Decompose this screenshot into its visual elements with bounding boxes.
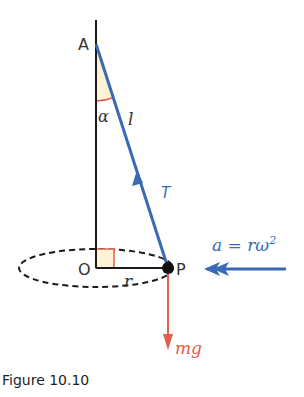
- weight-arrowhead: [163, 334, 173, 350]
- label-a: A: [78, 35, 89, 54]
- string-line: [96, 44, 168, 268]
- label-tension: T: [161, 184, 172, 202]
- label-p: P: [176, 260, 186, 279]
- right-angle-marker: [96, 249, 114, 268]
- label-o: O: [78, 260, 91, 279]
- point-p-dot: [162, 262, 174, 274]
- label-weight: mg: [175, 338, 202, 358]
- conical-pendulum-diagram: A O P α l r T mg a = rω2: [0, 0, 304, 397]
- figure-caption: Figure 10.10: [2, 372, 89, 388]
- label-acceleration: a = rω2: [212, 234, 276, 255]
- label-length: l: [128, 109, 133, 129]
- label-radius: r: [124, 271, 133, 291]
- label-alpha: α: [98, 107, 109, 126]
